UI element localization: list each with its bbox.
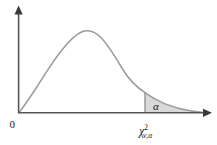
critical-value-subscript: ν,α <box>143 131 153 140</box>
chi-squared-density-curve <box>19 31 202 113</box>
y-axis-arrowhead-icon <box>15 6 23 15</box>
critical-value-label: χ2ν,α <box>138 123 153 140</box>
origin-label: 0 <box>10 118 16 130</box>
chi-squared-distribution-figure: 0 α χ2ν,α <box>0 0 217 145</box>
x-axis-arrowhead-icon <box>203 109 212 117</box>
alpha-area-label: α <box>153 100 159 112</box>
svg-text:χ2ν,α: χ2ν,α <box>138 123 153 140</box>
